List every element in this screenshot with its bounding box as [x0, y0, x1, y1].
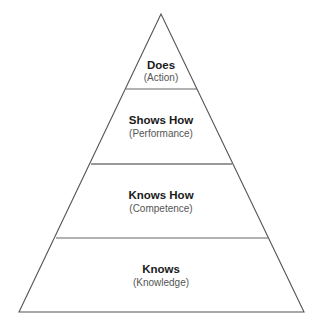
level-title: Shows How: [129, 114, 194, 126]
level-subtitle: (Action): [144, 72, 178, 83]
level-title: Does: [147, 59, 175, 71]
pyramid-diagram: Does (Action) Shows How (Performance) Kn…: [0, 0, 316, 329]
level-subtitle: (Performance): [129, 128, 193, 139]
level-title: Knows How: [128, 189, 193, 201]
level-title: Knows: [142, 263, 180, 275]
level-subtitle: (Competence): [129, 203, 192, 214]
level-subtitle: (Knowledge): [133, 277, 189, 288]
